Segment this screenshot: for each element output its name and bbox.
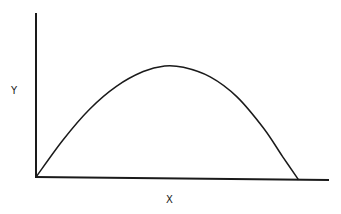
chart: Y X xyxy=(0,0,341,214)
x-axis-label: X xyxy=(166,194,173,205)
data-curve xyxy=(36,66,299,180)
y-axis-label: Y xyxy=(10,85,18,96)
x-axis xyxy=(35,177,329,180)
